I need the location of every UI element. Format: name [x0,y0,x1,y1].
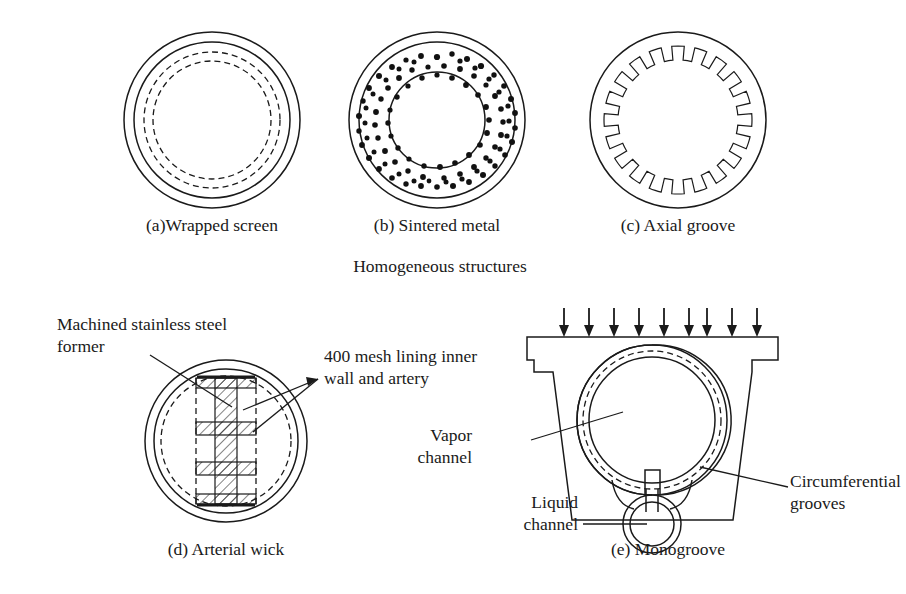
monogroove-vapor-inner-circle [589,357,715,483]
caption-panel-d: (d) Arterial wick [168,539,285,559]
panel-monogroove: Vapor channel Liquid channel Circumferen… [418,308,901,559]
panel-sintered-metal: (b) Sintered metal [349,32,525,235]
monogroove-heat-input-arrows [559,308,762,337]
panel-arterial-wick: Machined stainless steel former 400 mesh… [57,314,477,559]
wrapped-screen-inner-wall [134,42,290,198]
monogroove-circumferential-groove-line [583,351,721,489]
label-liquid-channel-line1: Liquid [531,492,578,512]
monogroove-vapor-channel [577,345,731,495]
heat-pipe-wick-structures-figure: (a)Wrapped screen [0,0,906,594]
arterial-machined-former [196,377,256,505]
label-vapor-channel-line2: channel [418,447,473,467]
axial-groove-toothed-inner-wall [604,46,752,194]
caption-panel-c: (c) Axial groove [621,215,736,235]
label-circumferential-line1: Circumferential [790,471,901,491]
panel-wrapped-screen: (a)Wrapped screen [124,32,300,235]
label-circumferential-line2: grooves [790,493,846,513]
label-liquid-channel-line2: channel [524,514,579,534]
monogroove-connecting-slot [612,480,692,512]
label-machined-former-line1: Machined stainless steel [57,314,227,334]
caption-panel-a: (a)Wrapped screen [146,215,278,235]
wrapped-screen-screen-layer-inner [153,61,271,179]
label-mesh-lining-line1: 400 mesh lining inner [324,346,477,366]
label-mesh-lining-line2: wall and artery [324,368,429,388]
axial-groove-outer-wall [590,32,766,208]
label-vapor-channel-line1: Vapor [430,425,472,445]
label-machined-former-line2: former [57,336,105,356]
group-caption-homogeneous-structures: Homogeneous structures [353,256,527,276]
leader-circumferential-grooves [700,467,788,487]
panel-axial-groove: (c) Axial groove [590,32,766,235]
monogroove-vapor-outer-circle [577,345,727,495]
caption-panel-e: (e) Monogroove [611,539,725,559]
caption-panel-b: (b) Sintered metal [374,215,500,235]
wrapped-screen-outer-wall [124,32,300,208]
wrapped-screen-screen-layer-outer [144,52,280,188]
